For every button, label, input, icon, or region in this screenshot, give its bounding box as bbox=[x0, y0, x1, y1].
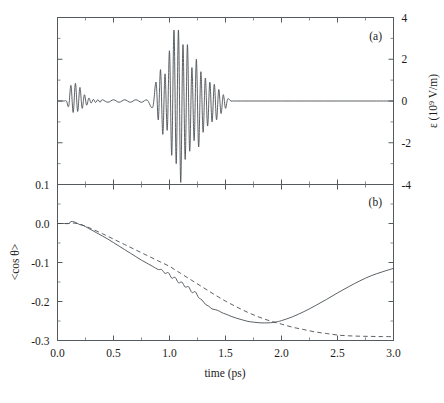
panel-b-label: (b) bbox=[369, 196, 383, 209]
panel-a-field-curve bbox=[58, 30, 394, 182]
panel-b-x-tick-labels: 0.00.51.01.52.02.53.0 bbox=[50, 347, 401, 359]
panel-a-y-tick-labels: 420-2-4 bbox=[402, 12, 412, 191]
y-tick-label-b: 0.0 bbox=[35, 218, 50, 230]
y-tick-label-a: -2 bbox=[402, 137, 412, 149]
panel-b-dashed-curve bbox=[58, 223, 394, 337]
x-axis-title: time (ps) bbox=[204, 367, 245, 380]
y-tick-label-b: 0.1 bbox=[35, 179, 50, 191]
panel-b-axis-title: <cos θ> bbox=[9, 244, 21, 281]
y-tick-label-a: -4 bbox=[402, 179, 412, 191]
x-tick-label: 1.0 bbox=[162, 347, 177, 359]
panel-a: 420-2-4 (a) ε (10⁹ V/m) bbox=[58, 12, 441, 191]
panel-b-ticks bbox=[58, 185, 394, 341]
panel-b-y-tick-labels: 0.10.0-0.1-0.2-0.3 bbox=[31, 179, 49, 347]
panel-b-frame bbox=[58, 185, 394, 341]
panel-a-label: (a) bbox=[369, 30, 382, 43]
x-tick-label: 0.0 bbox=[50, 347, 65, 359]
x-tick-label: 2.0 bbox=[274, 347, 289, 359]
x-tick-label: 0.5 bbox=[106, 347, 121, 359]
panel-a-axis-title: ε (10⁹ V/m) bbox=[427, 74, 440, 128]
y-tick-label-b: -0.1 bbox=[31, 257, 49, 269]
y-tick-label-a: 4 bbox=[402, 12, 408, 24]
y-tick-label-a: 0 bbox=[402, 95, 408, 107]
x-tick-label: 1.5 bbox=[218, 347, 233, 359]
figure-container: 420-2-4 (a) ε (10⁹ V/m) 0.10.0-0.1-0.2-0… bbox=[0, 0, 444, 403]
y-tick-label-b: -0.3 bbox=[31, 335, 49, 347]
two-panel-plot: 420-2-4 (a) ε (10⁹ V/m) 0.10.0-0.1-0.2-0… bbox=[0, 0, 444, 403]
x-tick-label: 2.5 bbox=[330, 347, 345, 359]
y-tick-label-a: 2 bbox=[402, 53, 408, 65]
x-tick-label: 3.0 bbox=[386, 347, 401, 359]
panel-b: 0.10.0-0.1-0.2-0.3 0.00.51.01.52.02.53.0… bbox=[9, 179, 401, 381]
panel-b-solid-curve bbox=[58, 221, 394, 322]
y-tick-label-b: -0.2 bbox=[31, 296, 49, 308]
